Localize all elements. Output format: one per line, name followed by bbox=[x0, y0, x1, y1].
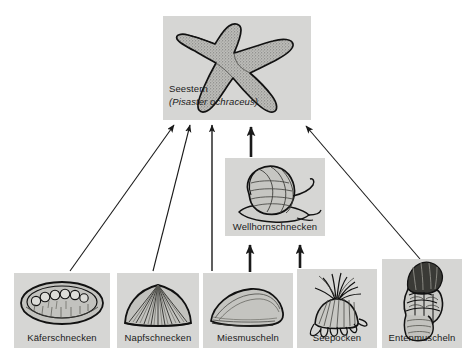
node-entenmuscheln[interactable]: Entenmuscheln bbox=[382, 259, 462, 348]
node-entenmuscheln-label: Entenmuscheln bbox=[382, 332, 462, 343]
node-seestern[interactable]: Seestern (Pisaster ochraceus) bbox=[163, 16, 311, 120]
edge-kaeferschnecken-to-seestern bbox=[70, 125, 174, 271]
node-miesmuscheln-label: Miesmuscheln bbox=[203, 332, 293, 343]
node-kaeferschnecken-label: Käferschnecken bbox=[14, 332, 110, 343]
node-seepocken[interactable]: Seepocken bbox=[297, 269, 377, 348]
node-miesmuscheln[interactable]: Miesmuscheln bbox=[203, 273, 293, 348]
node-kaeferschnecken[interactable]: Käferschnecken bbox=[14, 273, 110, 348]
seestern-scientific-name: (Pisaster ochraceus) bbox=[169, 95, 311, 108]
node-wellhornschnecken[interactable]: Wellhornschnecken bbox=[225, 158, 325, 236]
node-napfschnecken[interactable]: Napfschnecken bbox=[117, 273, 199, 348]
seestern-common-name: Seestern bbox=[169, 83, 208, 94]
food-web-diagram: Seestern (Pisaster ochraceus) Well bbox=[0, 0, 467, 363]
node-seepocken-label: Seepocken bbox=[297, 332, 377, 343]
edge-napfschnecken-to-seestern bbox=[153, 125, 190, 271]
node-wellhornschnecken-label: Wellhornschnecken bbox=[225, 221, 325, 232]
node-seestern-label: Seestern (Pisaster ochraceus) bbox=[163, 82, 311, 108]
node-napfschnecken-label: Napfschnecken bbox=[117, 332, 199, 343]
